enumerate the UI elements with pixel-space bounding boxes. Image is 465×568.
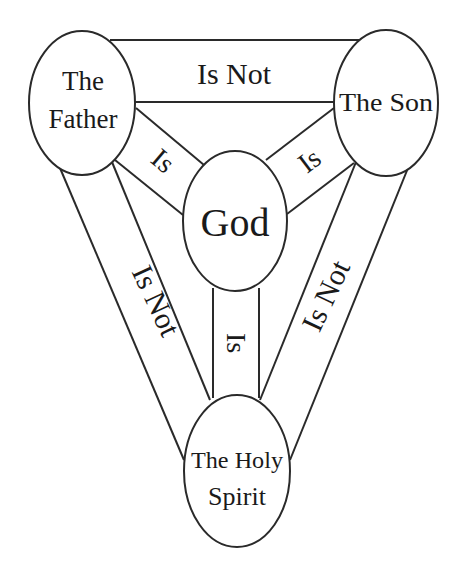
edge-label-father-god: Is	[145, 142, 180, 179]
label-father-line2: Father	[49, 104, 118, 134]
label-son: The Son	[339, 89, 434, 116]
edge-label-son-god: Is	[292, 142, 327, 179]
edge-label-son-spirit: Is Not	[295, 254, 357, 336]
label-spirit-line2: Spirit	[208, 482, 267, 511]
label-god: God	[201, 200, 270, 245]
node-father	[29, 31, 135, 175]
trinity-diagram: The Father The Son God The Holy Spirit I…	[0, 0, 465, 568]
edge-label-father-son: Is Not	[197, 57, 272, 90]
label-father-line1: The	[62, 66, 104, 96]
edge-label-father-spirit: Is Not	[126, 260, 188, 342]
label-spirit-line1: The Holy	[191, 447, 283, 473]
edge-label-spirit-god: Is	[221, 333, 252, 353]
